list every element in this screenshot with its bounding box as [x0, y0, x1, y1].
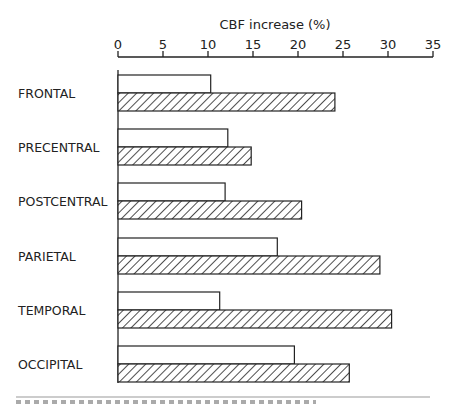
bar-chart: CBF increase (%) 05101520253035 FRONTALP…	[0, 0, 453, 404]
bar-hatched	[118, 93, 335, 111]
category-label: POSTCENTRAL	[18, 194, 108, 209]
bar-open	[118, 129, 228, 147]
tick-label: 5	[159, 37, 167, 52]
category-labels: FRONTALPRECENTRALPOSTCENTRALPARIETALTEMP…	[17, 86, 108, 372]
bar-hatched	[118, 201, 302, 219]
bar-hatched	[118, 147, 251, 165]
category-label: TEMPORAL	[17, 303, 85, 318]
bar-open	[118, 346, 294, 364]
bars	[118, 75, 392, 382]
truncated-caption	[16, 400, 316, 404]
bar-open	[118, 292, 220, 310]
bar-hatched	[118, 256, 380, 274]
bar-open	[118, 75, 211, 93]
axis-title: CBF increase (%)	[219, 17, 330, 32]
bar-hatched	[118, 364, 349, 382]
tick-label: 0	[114, 37, 122, 52]
category-label: PARIETAL	[18, 249, 76, 264]
tick-label: 15	[245, 37, 262, 52]
category-label: OCCIPITAL	[18, 357, 82, 372]
tick-label: 25	[335, 37, 352, 52]
bar-open	[118, 183, 225, 201]
tick-label: 35	[425, 37, 442, 52]
category-label: PRECENTRAL	[18, 140, 99, 155]
category-label: FRONTAL	[18, 86, 75, 101]
bar-open	[118, 238, 277, 256]
tick-label: 30	[380, 37, 397, 52]
tick-label: 10	[200, 37, 217, 52]
tick-label: 20	[290, 37, 307, 52]
bar-hatched	[118, 310, 392, 328]
